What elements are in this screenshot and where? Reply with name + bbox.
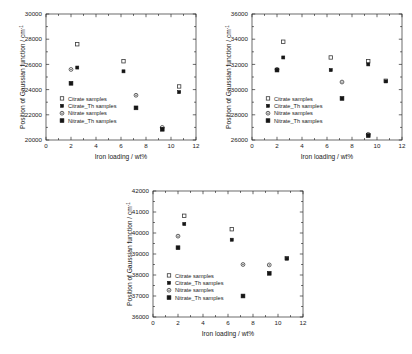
legend-label: Citrate samples [274,96,313,102]
legend-label: Nitrate samples [274,110,313,116]
legend-marker [266,97,269,100]
y-tick-label: 38000 [132,271,150,278]
legend-label: Nitrate_Th samples [274,118,323,124]
data-point [176,246,180,250]
series-1 [76,43,181,89]
data-point [122,70,125,73]
legend-marker [267,104,270,107]
x-axis: 024681012 [250,14,406,149]
x-tick-label: 4 [201,319,205,326]
data-point [69,81,73,85]
x-tick-label: 2 [69,142,73,149]
data-point [267,271,271,275]
x-tick-label: 8 [350,142,354,149]
y-tick-label: 28000 [25,35,43,42]
x-tick-label: 10 [168,142,175,149]
y-tick-label: 36000 [231,10,249,17]
legend-label: Nitrate_Th samples [68,118,117,124]
scatter-plot: 024681012200002200024000260002800030000I… [0,0,206,177]
chart-panel-top-left: 024681012200002200024000260002800030000I… [0,0,206,177]
legend-label: Citrate samples [175,273,214,279]
x-tick-label: 2 [176,319,180,326]
legend: Citrate samplesCitrate_Th samplesNitrate… [266,96,323,124]
series-1 [183,214,289,260]
y-tick-label: 39000 [132,250,150,257]
x-tick-label: 8 [251,319,255,326]
legend: Citrate samplesCitrate_Th samplesNitrate… [60,96,117,124]
data-point [275,68,279,72]
x-tick-label: 0 [44,142,48,149]
data-point [177,85,180,88]
data-point [241,294,245,298]
y-tick-label: 28000 [231,111,249,118]
data-point [367,60,370,63]
chart-panel-top-right: 024681012260002800030000320003400036000I… [206,0,412,177]
data-point [367,63,370,66]
data-point [267,263,271,267]
x-tick-label: 4 [94,142,98,149]
series-3 [176,234,271,267]
legend-marker [168,281,171,284]
data-point [76,66,79,69]
x-tick-label: 6 [119,142,123,149]
legend: Citrate samplesCitrate_Th samplesNitrate… [167,273,224,301]
x-tick-label: 6 [226,319,230,326]
data-point [340,97,344,101]
data-point [329,56,332,59]
y-tick-label: 34000 [231,35,249,42]
data-point [329,69,332,72]
y-tick-label: 26000 [231,136,249,143]
legend-marker [266,119,270,123]
y-axis-title: Position of Gaussian function / cm-1 [126,202,133,306]
x-tick-label: 12 [193,142,200,149]
data-point [134,106,138,110]
legend-marker [60,97,63,100]
data-point [183,222,186,225]
y-tick-label: 40000 [132,229,150,236]
x-tick-label: 0 [151,319,155,326]
x-axis-title: Iron loading / wt% [301,153,354,161]
legend-marker [167,288,171,292]
y-tick-label: 20000 [25,136,43,143]
legend-marker [167,296,171,300]
x-tick-label: 4 [300,142,304,149]
y-tick-label: 26000 [25,61,43,68]
data-point [384,80,387,83]
legend-label: Citrate_Th samples [68,103,117,109]
series-1 [282,40,388,82]
data-point [230,228,233,231]
x-axis-title: Iron loading / wt% [202,330,255,338]
x-tick-label: 12 [300,319,307,326]
legend-marker [61,104,64,107]
data-point [76,43,79,46]
data-point [230,238,233,241]
data-point [285,257,288,260]
data-point [160,127,164,131]
x-tick-label: 10 [275,319,282,326]
data-point [178,91,181,94]
y-tick-label: 42000 [132,187,150,194]
data-point [282,56,285,59]
legend-label: Nitrate samples [175,287,214,293]
legend-label: Citrate samples [68,96,107,102]
legend-label: Citrate_Th samples [175,280,224,286]
x-axis-title: Iron loading / wt% [95,153,148,161]
y-axis-title: Position of Gaussian function / cm-1 [19,25,26,129]
series-2 [183,222,289,260]
y-tick-label: 32000 [231,61,249,68]
y-tick-label: 41000 [132,208,150,215]
x-tick-label: 6 [325,142,329,149]
y-tick-label: 22000 [25,111,43,118]
scatter-plot: 024681012260002800030000320003400036000I… [206,0,412,177]
x-tick-label: 10 [374,142,381,149]
legend-label: Nitrate samples [68,110,107,116]
legend-label: Citrate_Th samples [274,103,323,109]
series-2 [282,56,388,83]
y-tick-label: 30000 [231,86,249,93]
scatter-figure: 024681012200002200024000260002800030000I… [0,0,412,354]
legend-marker [266,111,270,115]
x-tick-label: 0 [250,142,254,149]
y-tick-label: 24000 [25,86,43,93]
scatter-plot: 0246810123600037000380003900040000410004… [103,177,315,354]
series-3 [275,68,370,137]
